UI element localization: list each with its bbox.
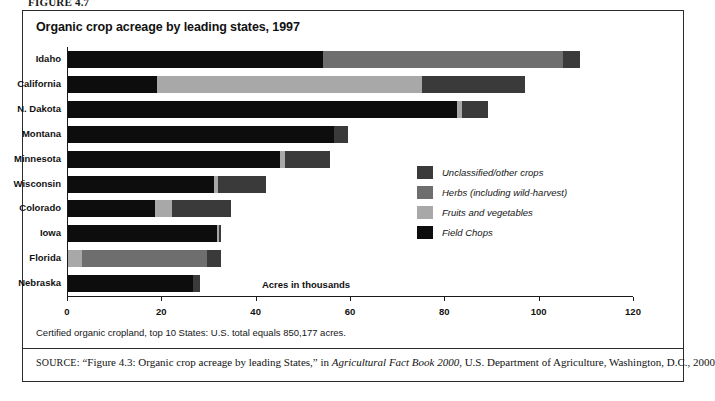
bar-segment[interactable] [422, 76, 525, 93]
x-tick [256, 297, 257, 301]
chart-title: Organic crop acreage by leading states, … [36, 20, 300, 34]
bar-row: Iowa [68, 225, 221, 242]
category-label: Colorado [19, 202, 61, 213]
stacked-bar[interactable] [68, 126, 348, 143]
stacked-bar[interactable] [68, 101, 488, 118]
bar-segment[interactable] [207, 250, 221, 267]
x-tick-label: 80 [439, 306, 450, 317]
figure-label: FIGURE 4.7 [28, 0, 89, 8]
bar-row: Nebraska [68, 275, 200, 292]
x-tick-label: 40 [250, 306, 261, 317]
stacked-bar[interactable] [68, 151, 330, 168]
source-prefix: SOURCE: [36, 357, 80, 368]
bar-row: Florida [68, 250, 221, 267]
bar-segment[interactable] [334, 126, 347, 143]
bar-row: Minnesota [68, 151, 330, 168]
legend-swatch [417, 166, 433, 179]
bar-segment[interactable] [285, 151, 330, 168]
bar-segment[interactable] [68, 51, 323, 68]
chart-source: SOURCE: “Figure 4.3: Organic crop acreag… [36, 356, 715, 368]
legend-item[interactable]: Herbs (including wild-harvest) [417, 183, 567, 202]
bar-segment[interactable] [219, 225, 221, 242]
stacked-bar[interactable] [68, 76, 525, 93]
bar-row: Montana [68, 126, 348, 143]
category-label: Idaho [36, 53, 61, 64]
bar-row: California [68, 76, 525, 93]
x-tick [633, 297, 634, 301]
category-label: Wisconsin [14, 178, 61, 189]
source-text-part2: , U.S. Department of Agriculture, Washin… [459, 356, 715, 368]
x-tick [350, 297, 351, 301]
bar-segment[interactable] [172, 200, 231, 217]
bar-segment[interactable] [82, 250, 207, 267]
bar-segment[interactable] [68, 225, 217, 242]
bar-segment[interactable] [193, 275, 200, 292]
stacked-bar[interactable] [68, 51, 580, 68]
category-label: Florida [29, 252, 61, 263]
category-label: Minnesota [14, 153, 61, 164]
legend-label: Field Chops [442, 227, 493, 238]
bar-row: Wisconsin [68, 176, 266, 193]
category-label: California [17, 78, 61, 89]
category-label: N. Dakota [17, 103, 61, 114]
legend-swatch [417, 226, 433, 239]
chart-footnote: Certified organic cropland, top 10 State… [36, 327, 346, 338]
bar-segment[interactable] [218, 176, 266, 193]
x-tick [539, 297, 540, 301]
x-tick-label: 0 [64, 306, 69, 317]
stacked-bar[interactable] [68, 250, 221, 267]
bar-segment[interactable] [68, 200, 155, 217]
x-axis-title: Acres in thousands [262, 279, 350, 290]
legend-item[interactable]: Fruits and vegetables [417, 203, 567, 222]
figure-frame: Organic crop acreage by leading states, … [22, 10, 684, 382]
bar-segment[interactable] [68, 76, 157, 93]
source-publication-title: Agricultural Fact Book 2000 [332, 356, 459, 368]
stacked-bar[interactable] [68, 275, 200, 292]
stacked-bar[interactable] [68, 200, 231, 217]
x-tick-label: 100 [531, 306, 547, 317]
source-text-part1: “Figure 4.3: Organic crop acreage by lea… [82, 356, 331, 368]
category-label: Montana [22, 128, 61, 139]
bar-segment[interactable] [462, 101, 488, 118]
chart-legend: Unclassified/other cropsHerbs (including… [417, 163, 567, 243]
bar-segment[interactable] [563, 51, 580, 68]
bar-row: Idaho [68, 51, 580, 68]
legend-swatch [417, 186, 433, 199]
category-label: Iowa [40, 227, 61, 238]
legend-swatch [417, 206, 433, 219]
legend-item[interactable]: Field Chops [417, 223, 567, 242]
stacked-bar[interactable] [68, 176, 266, 193]
category-label: Nebraska [18, 277, 61, 288]
legend-label: Unclassified/other crops [442, 167, 543, 178]
legend-item[interactable]: Unclassified/other crops [417, 163, 567, 182]
x-tick [67, 297, 68, 301]
legend-label: Herbs (including wild-harvest) [442, 187, 567, 198]
bar-segment[interactable] [68, 176, 214, 193]
bar-segment[interactable] [68, 151, 280, 168]
bar-segment[interactable] [68, 275, 193, 292]
bar-segment[interactable] [68, 101, 457, 118]
bar-segment[interactable] [157, 76, 422, 93]
source-divider [23, 348, 683, 349]
x-tick-label: 20 [156, 306, 167, 317]
x-tick-label: 60 [345, 306, 356, 317]
legend-label: Fruits and vegetables [442, 207, 533, 218]
bar-row: Colorado [68, 200, 231, 217]
bar-segment[interactable] [68, 126, 334, 143]
x-tick [161, 297, 162, 301]
x-tick [444, 297, 445, 301]
stacked-bar[interactable] [68, 225, 221, 242]
bar-row: N. Dakota [68, 101, 488, 118]
bar-segment[interactable] [68, 250, 82, 267]
bar-segment[interactable] [323, 51, 564, 68]
bar-segment[interactable] [155, 200, 172, 217]
x-tick-label: 120 [625, 306, 641, 317]
